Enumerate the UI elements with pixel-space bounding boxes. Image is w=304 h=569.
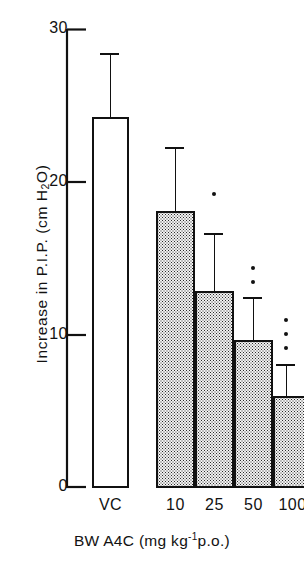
asterisk-icon <box>284 318 288 322</box>
asterisk-icon <box>284 332 288 336</box>
bar-dose-100 <box>273 396 304 488</box>
x-axis-title-main: BW A4C (mg kg <box>74 532 188 549</box>
error-bar-cap-dose-50 <box>243 297 262 299</box>
y-tick-label-20: 20 <box>49 172 68 190</box>
asterisk-icon <box>212 192 216 196</box>
significance-stars-dose-100 <box>276 318 295 360</box>
error-bar-line-dose-50 <box>253 297 255 342</box>
y-tick-label-0: 0 <box>59 477 68 495</box>
error-bar-cap-dose-100 <box>276 364 295 366</box>
x-axis-title-tail: p.o.) <box>198 532 231 549</box>
error-bar-line-dose-100 <box>286 364 288 398</box>
error-bar-line-dose-10 <box>175 147 177 213</box>
x-tick-label-100: 100 <box>267 496 304 514</box>
error-bar-cap-dose-10 <box>165 147 184 149</box>
figure-root: Increase in P.I.P. (cm H2O) 30 20 10 0 <box>0 0 304 569</box>
y-tick-label-30: 30 <box>49 19 68 37</box>
asterisk-icon <box>251 266 255 270</box>
bar-vc <box>92 117 129 488</box>
error-bar-line-vc <box>110 53 112 119</box>
error-bar-cap-vc <box>100 53 119 55</box>
x-tick-label-vc: VC <box>85 496 136 514</box>
asterisk-icon <box>251 280 255 284</box>
bar-dose-50 <box>234 340 273 488</box>
y-tick-label-10: 10 <box>49 325 68 343</box>
significance-stars-dose-25 <box>204 192 223 206</box>
significance-stars-dose-50 <box>243 266 262 294</box>
bar-dose-25 <box>195 291 234 488</box>
error-bar-line-dose-25 <box>214 233 216 293</box>
bar-dose-10 <box>156 211 195 488</box>
x-axis-title: BW A4C (mg kg-1p.o.) <box>0 531 304 550</box>
x-axis-title-superscript: -1 <box>188 531 198 542</box>
asterisk-icon <box>284 346 288 350</box>
error-bar-cap-dose-25 <box>204 233 223 235</box>
